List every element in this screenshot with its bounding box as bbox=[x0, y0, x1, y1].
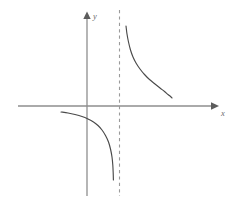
graph-figure: x y bbox=[0, 0, 242, 204]
graph-canvas: x y bbox=[0, 0, 242, 204]
arrow-right-icon bbox=[211, 102, 219, 110]
y-axis-label: y bbox=[92, 11, 97, 21]
curve-upper-right-branch bbox=[126, 26, 172, 98]
x-axis-label: x bbox=[220, 108, 225, 118]
arrow-up-icon bbox=[83, 12, 90, 20]
